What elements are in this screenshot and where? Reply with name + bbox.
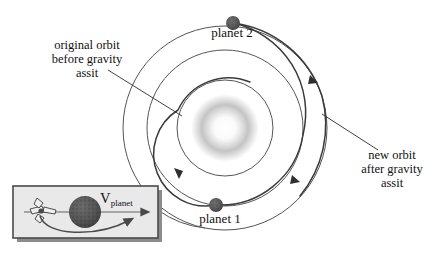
inner-trajectory-arrow — [174, 168, 183, 179]
sun — [191, 94, 259, 162]
label-planet-1: planet 1 — [184, 212, 256, 227]
inset-planet-texture — [69, 196, 101, 228]
label-new-orbit: new orbit after gravity assit — [352, 148, 432, 190]
outer-trajectory-arrow — [290, 175, 300, 184]
label-planet-2: planet 2 — [196, 26, 268, 41]
label-v-planet: Vplanet — [100, 190, 133, 208]
planet-1-dot-texture — [209, 198, 223, 212]
gravity-assist-diagram: original orbit before gravity assit new … — [0, 0, 432, 258]
leader-line-new-orbit — [322, 114, 378, 150]
v-planet-subscript: planet — [111, 198, 133, 208]
v-planet-symbol: V — [100, 190, 111, 206]
label-original-orbit: original orbit before gravity assit — [22, 38, 152, 80]
